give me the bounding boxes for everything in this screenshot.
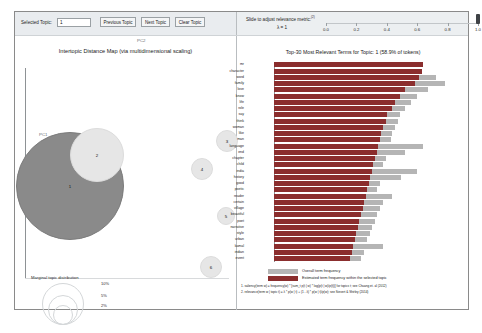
term-label[interactable]: woman: [233, 125, 244, 130]
topic-bubble-label: 3: [226, 139, 228, 144]
bar-topic-frequency: [274, 175, 370, 180]
bar-topic-frequency: [274, 69, 422, 74]
map-x-axis-label: PC2: [137, 38, 146, 43]
bar-topic-frequency: [274, 162, 373, 167]
slider-tick-label: 0.2: [353, 27, 359, 32]
slider-tick-label: 1.0: [475, 27, 481, 32]
term-label[interactable]: event: [235, 256, 244, 261]
topic-bubble-2[interactable]: 2: [70, 128, 124, 182]
bar-topic-frequency: [274, 156, 375, 161]
bar-topic-frequency: [274, 212, 361, 217]
bar-topic-frequency: [274, 87, 405, 92]
bar-topic-frequency: [274, 144, 378, 149]
term-label[interactable]: urban: [235, 237, 244, 242]
term-label[interactable]: know: [236, 94, 244, 99]
topic-bubble-label: 5: [225, 214, 227, 219]
lambda-value-label: λ = 1: [277, 25, 287, 30]
term-label[interactable]: india: [237, 169, 244, 174]
topic-bubble-label: 2: [96, 153, 98, 158]
bar-topic-frequency: [274, 100, 395, 105]
slider-tick: [326, 23, 327, 26]
next-topic-button[interactable]: Next Topic: [141, 17, 170, 27]
clear-topic-button[interactable]: Clear Topic: [175, 17, 205, 27]
term-label[interactable]: character: [229, 69, 244, 74]
term-label[interactable]: kamal: [235, 244, 244, 249]
term-label[interactable]: word: [236, 75, 244, 80]
slider-tick-label: 0.0: [323, 27, 329, 32]
term-label[interactable]: life: [240, 100, 244, 105]
bar-topic-frequency: [274, 194, 366, 199]
topic-bubble-label: 4: [201, 167, 203, 172]
relevance-footnote-ref: (2): [311, 15, 315, 19]
barchart-legend: Overall term frequency Estimated term fr…: [268, 268, 478, 282]
bar-topic-frequency: [274, 106, 392, 111]
relevance-slider-caption: Slide to adjust relevance metric:(2): [246, 15, 315, 22]
term-label[interactable]: indian: [235, 250, 244, 255]
marginal-size-label: 5%: [101, 293, 107, 298]
relevance-slider-caption-text: Slide to adjust relevance metric:: [246, 17, 311, 22]
term-label[interactable]: beautiful: [231, 212, 244, 217]
marginal-size-label: 2%: [101, 303, 107, 308]
slider-tick: [417, 23, 418, 26]
relevance-slider-track[interactable]: [326, 23, 478, 25]
bar-topic-frequency: [274, 187, 367, 192]
topic-bubble-6[interactable]: 6: [200, 256, 222, 278]
legend-row-overall: Overall term frequency: [268, 268, 478, 275]
bar-topic-frequency: [274, 181, 369, 186]
bar-topic-frequency: [274, 206, 363, 211]
term-label[interactable]: village: [234, 206, 244, 211]
bar-topic-frequency: [274, 62, 423, 67]
term-label[interactable]: good: [236, 181, 244, 186]
term-label[interactable]: mr: [240, 62, 244, 67]
term-label[interactable]: say: [239, 112, 244, 117]
topic-bubble-label: 6: [210, 265, 212, 270]
term-label[interactable]: poetic: [235, 187, 244, 192]
bar-topic-frequency: [274, 137, 380, 142]
bar-topic-frequency: [274, 244, 353, 249]
term-label[interactable]: certain: [233, 200, 244, 205]
term-label[interactable]: poet: [237, 219, 244, 224]
barchart-row[interactable]: event: [238, 256, 468, 262]
bar-topic-frequency: [274, 125, 383, 130]
marginal-size-label: 10%: [101, 281, 109, 286]
toolbar: Selected Topic: Previous Topic Next Topi…: [15, 12, 468, 36]
term-label[interactable]: think: [237, 119, 244, 124]
footnote-relevance: 2. relevance(term w | topic t) = λ * p(w…: [241, 290, 368, 294]
term-label[interactable]: narrative: [230, 225, 244, 230]
term-label[interactable]: history: [234, 175, 244, 180]
bar-topic-frequency: [274, 225, 358, 230]
bar-topic-frequency: [274, 131, 381, 136]
slider-tick-label: 0.6: [414, 27, 420, 32]
bar-topic-frequency: [274, 119, 386, 124]
previous-topic-button[interactable]: Previous Topic: [100, 17, 136, 27]
selected-topic-input[interactable]: [57, 18, 91, 27]
bar-topic-frequency: [274, 231, 356, 236]
term-label[interactable]: love: [238, 87, 244, 92]
legend-swatch-overall: [268, 269, 298, 274]
term-label[interactable]: chapter: [232, 156, 244, 161]
term-label[interactable]: end: [238, 150, 244, 155]
term-label[interactable]: reader: [234, 194, 244, 199]
marginal-distribution-title: Marginal topic distribution: [31, 275, 78, 280]
slider-tick-label: 0.4: [384, 27, 390, 32]
topic-selector-bar: Selected Topic: Previous Topic Next Topi…: [15, 12, 237, 35]
slider-tick-label: 0.8: [445, 27, 451, 32]
bar-topic-frequency: [274, 81, 415, 86]
relevance-slider-handle[interactable]: [476, 14, 480, 24]
relevant-terms-title: Top-30 Most Relevant Terms for Topic: 1 …: [238, 49, 468, 55]
legend-label-estimated: Estimated term frequency within the sele…: [302, 276, 387, 280]
term-label[interactable]: style: [237, 231, 244, 236]
topic-bubble-3[interactable]: 3: [216, 130, 238, 152]
term-label[interactable]: role: [238, 106, 244, 111]
term-label[interactable]: man: [237, 137, 244, 142]
legend-swatch-estimated: [268, 276, 298, 281]
bar-topic-frequency: [274, 219, 359, 224]
term-label[interactable]: like: [239, 131, 244, 136]
topic-bubble-4[interactable]: 4: [191, 158, 213, 180]
bar-topic-frequency: [274, 112, 387, 117]
term-label[interactable]: language: [230, 144, 244, 149]
term-label[interactable]: child: [237, 162, 244, 167]
bar-topic-frequency: [274, 75, 419, 80]
term-label[interactable]: family: [235, 81, 244, 86]
slider-tick: [387, 23, 388, 26]
